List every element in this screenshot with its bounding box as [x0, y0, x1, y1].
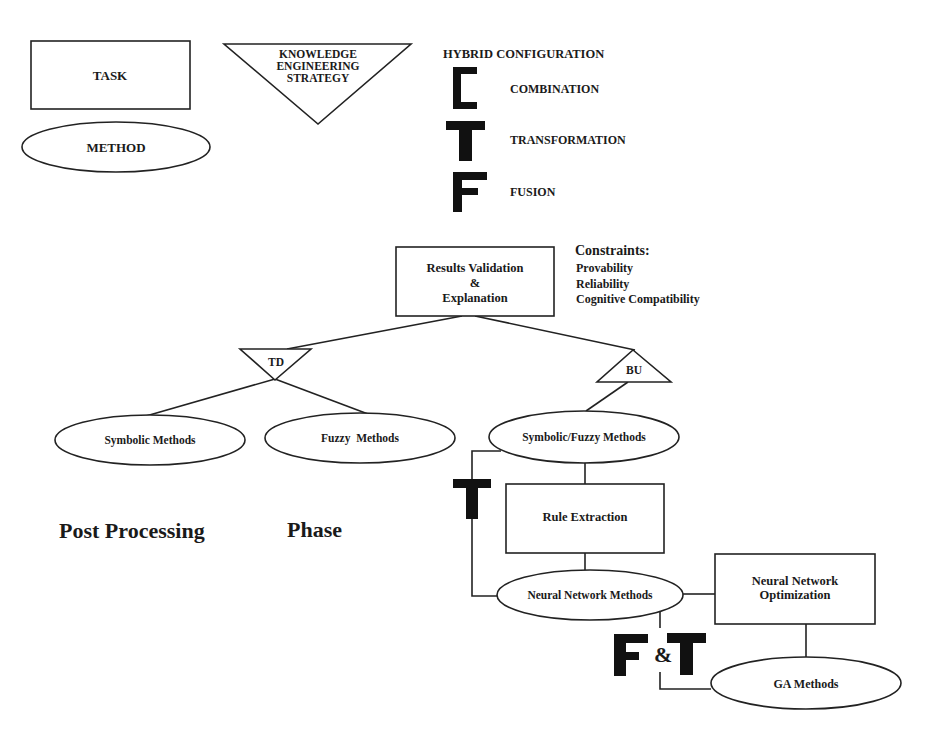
fuzzy-methods-node: Fuzzy Methods: [265, 413, 455, 463]
neural-network-methods-label: Neural Network Methods: [527, 589, 653, 601]
transformation-label: TRANSFORMATION: [510, 133, 626, 147]
task-label: TASK: [93, 68, 128, 83]
phase-title-right: Phase: [287, 517, 342, 542]
transformation-icon: [446, 121, 485, 161]
symbolic-methods-label: Symbolic Methods: [104, 434, 196, 447]
fusion-icon: [453, 172, 487, 212]
combination-label: COMBINATION: [510, 82, 599, 96]
fusion-marker-icon: [614, 634, 648, 676]
symbolic-methods-node: Symbolic Methods: [55, 415, 245, 465]
constraint-reliability: Reliability: [576, 277, 629, 291]
ampersand-label: &: [654, 642, 672, 667]
fuzzy-methods-label: Fuzzy Methods: [321, 432, 399, 445]
phase-title-left: Post Processing: [59, 518, 205, 543]
connector-root-td: [287, 316, 462, 349]
strategy-label-line-3: STRATEGY: [287, 72, 350, 84]
connector-td-fuzzy: [275, 379, 368, 414]
bu-label: BU: [626, 364, 643, 376]
root-label-line-2: &: [470, 276, 480, 290]
symbolic-fuzzy-methods-node: Symbolic/Fuzzy Methods: [489, 411, 679, 463]
transformation-marker-icon-2: [667, 633, 706, 675]
symbolic-fuzzy-methods-label: Symbolic/Fuzzy Methods: [522, 431, 646, 444]
ga-methods-label: GA Methods: [773, 677, 838, 691]
neural-network-methods-node: Neural Network Methods: [497, 570, 683, 620]
td-strategy: TD: [240, 349, 311, 380]
strategy-label-line-2: ENGINEERING: [276, 60, 359, 72]
combination-icon: [453, 67, 477, 109]
td-label: TD: [268, 356, 284, 368]
legend-strategy: KNOWLEDGE ENGINEERING STRATEGY: [224, 44, 411, 124]
legend-hybrid: HYBRID CONFIGURATION COMBINATION TRANSFO…: [443, 47, 626, 212]
root-label-line-3: Explanation: [442, 291, 507, 305]
method-label: METHOD: [86, 140, 145, 155]
constraint-provability: Provability: [576, 261, 633, 275]
connector-td-symbolic: [146, 379, 275, 416]
ga-methods-node: GA Methods: [711, 657, 901, 709]
constraints-title: Constraints:: [575, 243, 650, 258]
legend-task: TASK: [31, 41, 190, 109]
diagram-canvas: TASK METHOD KNOWLEDGE ENGINEERING STRATE…: [0, 0, 933, 741]
connector-transform-loop: [472, 451, 501, 596]
connector-bu-symfuzzy: [586, 382, 628, 411]
nn-optimization-label-line-1: Neural Network: [752, 574, 838, 588]
fusion-label: FUSION: [510, 185, 556, 199]
bu-strategy: BU: [597, 350, 671, 382]
transformation-marker-icon: [453, 479, 491, 519]
rule-extraction-node: Rule Extraction: [506, 484, 664, 553]
connector-root-bu: [475, 316, 635, 350]
root-label-line-1: Results Validation: [427, 261, 524, 275]
hybrid-title: HYBRID CONFIGURATION: [443, 47, 604, 61]
fusion-transformation-marker: &: [614, 633, 706, 676]
constraint-cognitive-compatibility: Cognitive Compatibility: [576, 292, 700, 306]
nn-optimization-node: Neural Network Optimization: [715, 554, 875, 624]
rule-extraction-label: Rule Extraction: [542, 510, 627, 524]
nn-optimization-label-line-2: Optimization: [760, 588, 831, 602]
strategy-label-line-1: KNOWLEDGE: [279, 48, 357, 60]
legend-method: METHOD: [22, 122, 210, 172]
constraints: Constraints: Provability Reliability Cog…: [575, 243, 700, 306]
root-task: Results Validation & Explanation: [396, 247, 554, 316]
